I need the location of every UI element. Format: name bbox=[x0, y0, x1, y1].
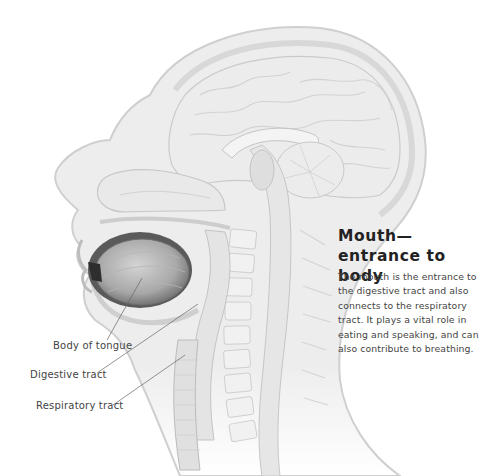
caption-line: connects to the respiratory bbox=[338, 299, 485, 313]
caption-title-line1: Mouth— bbox=[338, 226, 485, 246]
label-respiratory-tract: Respiratory tract bbox=[36, 400, 123, 411]
caption-description: The mouth is the entrance to the digesti… bbox=[338, 270, 485, 356]
label-body-of-tongue: Body of tongue bbox=[53, 340, 132, 351]
anatomy-diagram: Body of tongue Digestive tract Respirato… bbox=[0, 0, 485, 476]
label-digestive-tract: Digestive tract bbox=[30, 369, 107, 380]
caption-line: the digestive tract and also bbox=[338, 284, 485, 298]
caption-line: tract. It plays a vital role in bbox=[338, 313, 485, 327]
caption-line: The mouth is the entrance to bbox=[338, 270, 485, 284]
caption-line: also contribute to breathing. bbox=[338, 342, 485, 356]
pons bbox=[250, 150, 274, 190]
tongue bbox=[95, 239, 189, 305]
caption-line: eating and speaking, and can bbox=[338, 328, 485, 342]
